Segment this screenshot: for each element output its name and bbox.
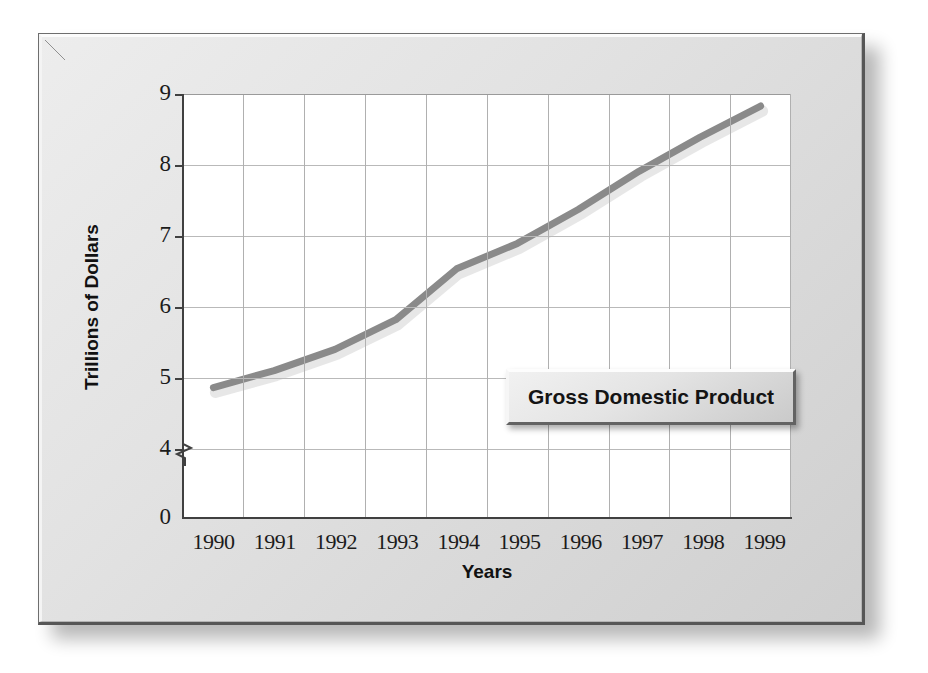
plot-area (183, 94, 791, 518)
gridline-x-1995 (487, 95, 488, 519)
y-tick-0: 0 (127, 518, 171, 519)
x-tick-1992: 1992 (305, 529, 366, 559)
y-tick-4: 4 (127, 449, 171, 450)
y-tick-6: 6 (127, 307, 171, 308)
y-axis-tick-8 (175, 165, 183, 167)
y-axis-tick-9 (175, 94, 183, 96)
gridline-x-1991 (243, 95, 244, 519)
gridline-x-1992 (304, 95, 305, 519)
y-axis-tick-6 (175, 307, 183, 309)
x-tick-1999: 1999 (734, 529, 795, 559)
x-tick-1990: 1990 (183, 529, 244, 559)
legend-label: Gross Domestic Product (528, 385, 774, 409)
plot-wrapper: 9 8 7 6 5 4 0 (39, 34, 866, 626)
gridline-x-right (790, 95, 791, 519)
gridline-x-1998 (669, 95, 670, 519)
gridline-x-1993 (365, 95, 366, 519)
x-tick-1997: 1997 (611, 529, 672, 559)
y-tick-5: 5 (127, 378, 171, 379)
y-tick-7: 7 (127, 236, 171, 237)
y-tick-9: 9 (127, 94, 171, 95)
chart-panel: 9 8 7 6 5 4 0 (38, 33, 865, 625)
gridline-x-1994 (426, 95, 427, 519)
x-axis-title: Years (183, 561, 791, 583)
legend-box[interactable]: Gross Domestic Product (506, 369, 796, 425)
y-axis-title: Trillions of Dollars (81, 192, 103, 422)
y-axis-tick-7 (175, 236, 183, 238)
x-tick-1998: 1998 (673, 529, 734, 559)
gridline-x-1997 (609, 95, 610, 519)
x-tick-1994: 1994 (428, 529, 489, 559)
x-axis-tick-labels: 1990 1991 1992 1993 1994 1995 1996 1997 … (183, 529, 795, 559)
x-tick-1996: 1996 (550, 529, 611, 559)
gridline-x-1999 (730, 95, 731, 519)
y-tick-8: 8 (127, 165, 171, 166)
y-axis-tick-5 (175, 378, 183, 380)
gridline-x-1996 (548, 95, 549, 519)
x-tick-1995: 1995 (489, 529, 550, 559)
x-tick-1993: 1993 (367, 529, 428, 559)
x-axis-line (182, 517, 792, 519)
axis-break-zigzag-icon (173, 434, 195, 468)
x-tick-1991: 1991 (244, 529, 305, 559)
